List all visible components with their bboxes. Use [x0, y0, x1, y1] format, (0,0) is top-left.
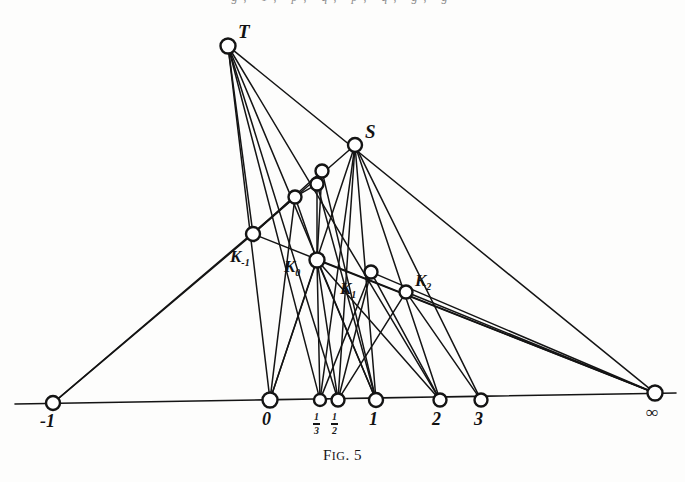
- figure-edge: [258, 175, 318, 230]
- point-label-pm1: -1: [40, 412, 55, 430]
- figure-node-a: [289, 191, 302, 204]
- figure-node-pinf: [648, 386, 663, 401]
- k-label-subscript: 2: [426, 281, 431, 292]
- figure-edge: [412, 294, 649, 390]
- k-label-base: K: [230, 247, 241, 266]
- figure-node-p12: [332, 394, 345, 407]
- figure-edge: [233, 50, 649, 388]
- k-label-subscript: -1: [241, 257, 249, 268]
- figure-node-p2: [434, 394, 447, 407]
- figure-node-k2: [400, 286, 413, 299]
- k-label-subscript: 0: [295, 267, 300, 278]
- figure-edge: [317, 267, 320, 395]
- point-label-t: T: [238, 22, 250, 41]
- axis-segment: [60, 400, 264, 403]
- axis-label-p13: 13: [313, 412, 320, 436]
- figure-node-s: [348, 138, 362, 152]
- fraction-numerator: 1: [313, 412, 320, 422]
- figure-edge: [409, 297, 477, 395]
- figure-node-k0: [310, 253, 325, 268]
- figure-node-c: [316, 165, 329, 178]
- figure-node-km1: [246, 227, 260, 241]
- axis-label-p12: 12: [331, 412, 338, 436]
- fraction-denominator: 3: [313, 426, 320, 436]
- figure-edge: [230, 53, 336, 395]
- caption-number: . 5: [346, 447, 363, 463]
- figure-edge: [230, 53, 319, 395]
- fraction-denominator: 2: [331, 426, 338, 436]
- fraction-numerator: 1: [331, 412, 338, 422]
- axis-segment: [487, 393, 648, 396]
- figure-node-pm1: [46, 396, 60, 410]
- k-label-base: K: [340, 279, 351, 298]
- caption-smallcaps: IG: [332, 449, 346, 463]
- k-label-km1: K-1: [230, 248, 250, 268]
- figure-drawing: [0, 0, 685, 482]
- figure-node-k1: [365, 266, 378, 279]
- point-label-p2: 2: [432, 410, 441, 428]
- edge-layer: [58, 50, 650, 398]
- k-label-subscript: 1: [351, 289, 356, 300]
- point-label-p1: 1: [369, 410, 378, 428]
- k-label-base: K: [284, 257, 295, 276]
- axis-segment: [383, 397, 435, 398]
- figure-node-p13: [314, 394, 326, 406]
- k-label-base: K: [415, 271, 426, 290]
- caption-prefix: F: [323, 447, 332, 463]
- axis-segment: [15, 403, 47, 404]
- figure-caption: FIG. 5: [0, 447, 685, 464]
- k-label-k1: K1: [340, 280, 356, 300]
- figure-node-p1: [369, 393, 383, 407]
- point-label-p3: 3: [474, 410, 483, 428]
- figure-container: g, 1, p, q, p, q, g, g TSK-1K0K1K2-10131…: [0, 0, 685, 482]
- k-label-k2: K2: [415, 272, 431, 292]
- figure-node-t: [221, 39, 236, 54]
- axis-segment: [277, 399, 315, 400]
- point-label-s: S: [365, 122, 376, 141]
- figure-node-p0: [263, 393, 278, 408]
- figure-node-p3: [475, 394, 488, 407]
- figure-edge: [297, 203, 315, 254]
- node-layer: [46, 39, 663, 411]
- point-label-p0: 0: [262, 410, 271, 428]
- point-label-pinf: ∞: [646, 404, 658, 421]
- k-label-k0: K0: [284, 258, 300, 278]
- figure-node-b: [311, 178, 324, 191]
